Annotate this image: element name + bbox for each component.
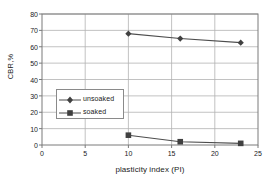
- y-tick-label: 80: [20, 11, 38, 18]
- y-tick-label: 50: [20, 60, 38, 67]
- diamond-marker-icon: [57, 92, 83, 104]
- data-point-soaked: [177, 139, 183, 145]
- square-marker-icon: [57, 105, 83, 117]
- y-tick-label: 10: [20, 125, 38, 132]
- y-tick-label: 30: [20, 92, 38, 99]
- x-tick-label: 15: [168, 150, 176, 157]
- data-point-soaked: [238, 141, 244, 147]
- legend: unsoaked soaked: [56, 89, 124, 119]
- legend-item-soaked: soaked: [57, 104, 123, 118]
- y-tick-label: 40: [20, 76, 38, 83]
- y-tick-label: 70: [20, 27, 38, 34]
- x-tick-label-group: 0510152025: [0, 150, 276, 162]
- y-axis-title: CBR,%: [6, 37, 15, 97]
- chart-container: CBR,% 01020304050607080 0510152025 plast…: [0, 0, 276, 182]
- legend-label-unsoaked: unsoaked: [83, 95, 114, 102]
- y-tick-label: 0: [20, 142, 38, 149]
- x-tick-label: 20: [211, 150, 219, 157]
- x-tick-label: 10: [124, 150, 132, 157]
- y-tick-label: 60: [20, 43, 38, 50]
- x-tick-label: 25: [254, 150, 262, 157]
- legend-label-soaked: soaked: [83, 108, 106, 115]
- x-tick-label: 5: [83, 150, 87, 157]
- legend-item-unsoaked: unsoaked: [57, 91, 123, 105]
- x-axis-title: plasticity index (PI): [42, 165, 258, 174]
- x-tick-label: 0: [40, 150, 44, 157]
- y-tick-label: 20: [20, 109, 38, 116]
- data-point-soaked: [126, 132, 132, 138]
